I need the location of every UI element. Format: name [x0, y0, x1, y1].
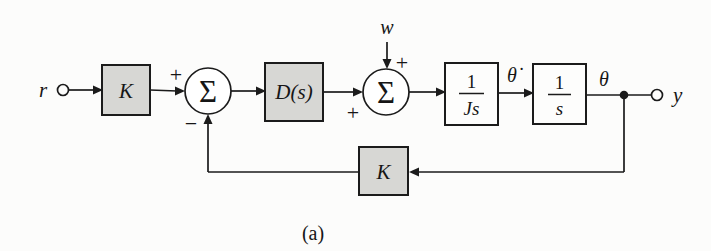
arrowhead-into-sum2 — [353, 88, 363, 97]
integrator-denominator: s — [556, 98, 563, 119]
sum2-sigma-symbol: Σ — [377, 75, 395, 110]
block-diagram-canvas: Σ Σ K D(s) K 1 Js 1 s r w y θ̇ θ + − + +… — [0, 0, 711, 251]
theta-dot-label: θ̇ — [507, 64, 523, 86]
controller-label: D(s) — [274, 80, 312, 104]
disturbance-label: w — [380, 16, 394, 38]
figure-caption: (a) — [302, 222, 324, 245]
arrowhead-disturbance-into-sum2 — [383, 59, 392, 69]
inertia-denominator: Js — [464, 98, 480, 119]
sum1-minus-sign: − — [185, 111, 197, 136]
forward-gain-label: K — [118, 79, 134, 103]
arrowhead-into-sum1 — [175, 87, 185, 96]
sum1-sigma-symbol: Σ — [199, 74, 217, 109]
integrator-numerator: 1 — [555, 72, 565, 93]
wire-gain-to-sum1 — [150, 90, 177, 91]
branch-node-dot — [620, 91, 629, 100]
block-diagram-figure: Σ Σ K D(s) K 1 Js 1 s r w y θ̇ θ + − + +… — [0, 0, 711, 251]
sum2-plus-input-sign: + — [347, 100, 359, 125]
arrowhead-into-feedback-gain — [409, 168, 419, 177]
feedback-gain-label: K — [375, 160, 391, 184]
sum2-plus-disturbance-sign: + — [396, 50, 408, 75]
output-label: y — [671, 83, 683, 107]
input-label: r — [39, 78, 48, 102]
theta-label: θ — [599, 68, 609, 90]
sum1-plus-sign: + — [170, 62, 182, 87]
input-terminal-circle — [58, 85, 69, 96]
inertia-numerator: 1 — [467, 71, 477, 92]
arrowhead-feedback-into-sum1 — [204, 114, 213, 124]
output-terminal-circle — [652, 90, 663, 101]
